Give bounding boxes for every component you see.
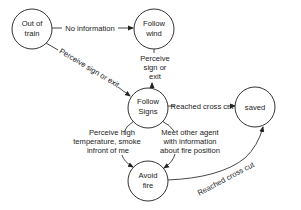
svg-text:Signs: Signs bbox=[139, 107, 158, 116]
svg-text:Follow: Follow bbox=[143, 19, 165, 28]
svg-text:Out of: Out of bbox=[22, 19, 44, 28]
edge-perceive-high-temperature: Perceive high temperature, smoke infront… bbox=[73, 121, 141, 167]
edge-label: Meet other agent bbox=[161, 128, 219, 137]
edge-signs-to-wind: Perceive sign or exit bbox=[140, 49, 170, 88]
edge-label: exit bbox=[149, 72, 162, 81]
edge-label: Perceive bbox=[140, 54, 170, 63]
edge-signs-to-saved: Reached cross cut bbox=[168, 102, 235, 111]
svg-text:wind: wind bbox=[145, 29, 162, 38]
svg-text:Follow: Follow bbox=[137, 97, 159, 106]
node-follow-wind: Follow wind bbox=[134, 9, 174, 49]
svg-text:train: train bbox=[25, 29, 40, 38]
node-out-of-train: Out of train bbox=[12, 9, 52, 49]
svg-text:fire: fire bbox=[143, 181, 154, 190]
node-follow-signs: Follow Signs bbox=[128, 88, 168, 128]
node-saved: saved bbox=[235, 87, 275, 127]
edge-label: No information bbox=[65, 24, 114, 33]
edge-meet-other-agent: Meet other agent with information about … bbox=[160, 121, 220, 168]
edge-label: temperature, smoke bbox=[73, 137, 141, 146]
edge-label: Reached cross cut bbox=[171, 102, 235, 111]
edge-perceive-sign-or-exit: Perceive sign or exit bbox=[46, 43, 130, 96]
edge-label: about fire position bbox=[160, 146, 220, 155]
edge-label: Perceive sign or exit bbox=[58, 46, 122, 89]
edge-label: sign or bbox=[144, 63, 167, 72]
svg-text:saved: saved bbox=[245, 103, 265, 112]
edge-no-information: No information bbox=[52, 24, 133, 33]
node-avoid-fire: Avoid fire bbox=[128, 161, 168, 201]
edge-label: with information bbox=[162, 137, 216, 146]
svg-text:Avoid: Avoid bbox=[139, 171, 158, 180]
edge-label: infront of me bbox=[87, 146, 129, 155]
edge-label: Perceive high bbox=[89, 128, 135, 137]
edge-label: Reached cross cut bbox=[196, 160, 257, 198]
state-diagram: No information Perceive sign or exit Per… bbox=[0, 0, 301, 210]
